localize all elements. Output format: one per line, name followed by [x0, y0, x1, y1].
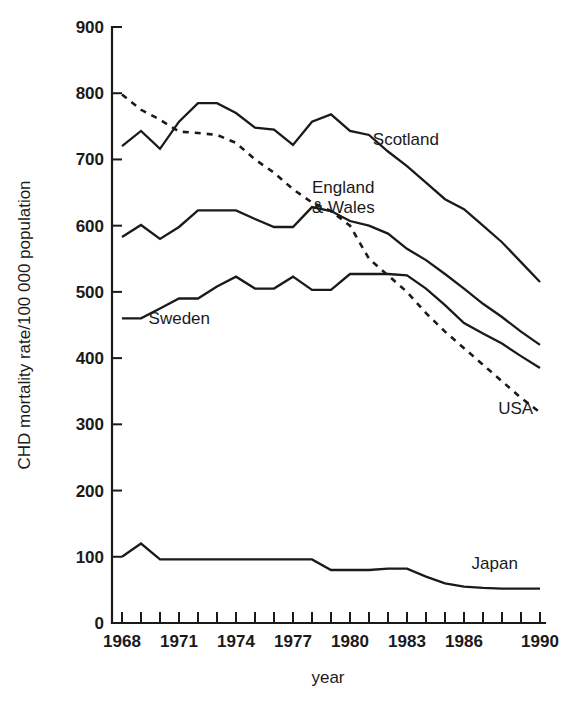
x-tick-label: 1986 — [445, 632, 483, 651]
y-tick-label: 500 — [76, 283, 104, 302]
x-tick-label: 1968 — [103, 632, 141, 651]
y-axis-ticks — [112, 27, 122, 623]
x-tick-label: 1977 — [274, 632, 312, 651]
series-line-usa — [122, 95, 540, 413]
x-tick-label: 1990 — [521, 632, 559, 651]
chd-mortality-chart-figure: 0100200300400500600700800900 CHD mortali… — [0, 0, 581, 704]
y-tick-label: 100 — [76, 548, 104, 567]
y-axis-tick-labels: 0100200300400500600700800900 — [76, 18, 104, 633]
y-axis-title: CHD mortality rate/100 000 population — [15, 180, 34, 469]
x-tick-label: 1974 — [217, 632, 255, 651]
x-axis: 19681971197419771980198319861990 year — [103, 612, 559, 687]
y-tick-label: 0 — [95, 614, 104, 633]
y-tick-label: 800 — [76, 84, 104, 103]
series-label-usa: USA — [498, 399, 534, 418]
series-labels: ScotlandEngland& WalesSwedenUSAJapan — [149, 130, 534, 573]
series-lines — [122, 95, 540, 589]
y-axis: 0100200300400500600700800900 CHD mortali… — [15, 18, 122, 633]
y-tick-label: 300 — [76, 415, 104, 434]
x-tick-label: 1980 — [331, 632, 369, 651]
y-tick-label: 600 — [76, 217, 104, 236]
series-label-england-wales: England& Wales — [312, 178, 375, 217]
series-label-sweden: Sweden — [149, 309, 210, 328]
chart-canvas: 0100200300400500600700800900 CHD mortali… — [0, 0, 581, 704]
x-tick-label: 1971 — [160, 632, 198, 651]
x-axis-title: year — [311, 668, 344, 687]
y-tick-label: 400 — [76, 349, 104, 368]
y-tick-label: 900 — [76, 18, 104, 37]
series-label-japan: Japan — [472, 554, 518, 573]
y-tick-label: 700 — [76, 150, 104, 169]
x-axis-ticks — [122, 612, 540, 623]
x-axis-tick-labels: 19681971197419771980198319861990 — [103, 632, 559, 651]
series-label-scotland: Scotland — [373, 130, 439, 149]
y-tick-label: 200 — [76, 482, 104, 501]
x-tick-label: 1983 — [388, 632, 426, 651]
